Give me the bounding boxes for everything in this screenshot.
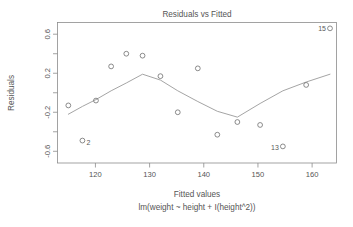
outlier-label: 15 — [318, 25, 326, 32]
y-axis-label: Residuals — [7, 75, 16, 111]
x-tick-label: 120 — [89, 170, 102, 179]
residuals-vs-fitted-plot: Residuals vs Fitted 120130140150160 -0.6… — [0, 0, 353, 227]
outlier-label: 13 — [271, 144, 279, 151]
x-axis-label: Fitted values — [174, 190, 220, 199]
chart-canvas: Residuals vs Fitted 120130140150160 -0.6… — [0, 0, 353, 227]
page-title: Residuals vs Fitted — [162, 10, 232, 19]
x-tick-label: 140 — [197, 170, 210, 179]
outlier-label: 2 — [86, 139, 90, 146]
x-tick-label: 130 — [143, 170, 156, 179]
x-tick-label: 150 — [252, 170, 265, 179]
y-tick-label: 0.2 — [44, 68, 53, 79]
y-tick-label: -0.2 — [44, 106, 53, 119]
y-tick-label: -0.6 — [44, 145, 53, 158]
model-formula-caption: lm(weight ~ height + I(height^2)) — [138, 203, 255, 212]
y-tick-label: 0.6 — [44, 29, 53, 40]
x-tick-label: 160 — [306, 170, 319, 179]
